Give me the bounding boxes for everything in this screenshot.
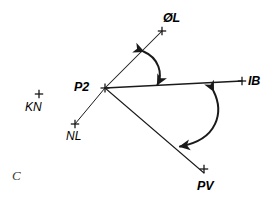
point-label-nl: NL bbox=[66, 130, 81, 142]
angle-arc-ib-pv bbox=[180, 91, 218, 147]
marker-cross-ib bbox=[238, 77, 246, 85]
point-label-pv: PV bbox=[197, 180, 213, 193]
point-label-ol: ØL bbox=[163, 12, 180, 25]
point-label-ib: IB bbox=[248, 75, 260, 88]
ray-p2-ib bbox=[105, 81, 242, 88]
figure-canvas: P2 ØL IB PV NL KN C bbox=[0, 0, 277, 203]
point-label-p2: P2 bbox=[74, 81, 89, 94]
ray-p2-pv bbox=[105, 88, 204, 173]
marker-cross-pv bbox=[200, 165, 208, 173]
angle-arc-ol-ib bbox=[144, 52, 160, 85]
point-label-kn: KN bbox=[25, 101, 42, 113]
figure-caption-letter: C bbox=[12, 169, 21, 182]
marker-cross-kn bbox=[35, 90, 43, 98]
